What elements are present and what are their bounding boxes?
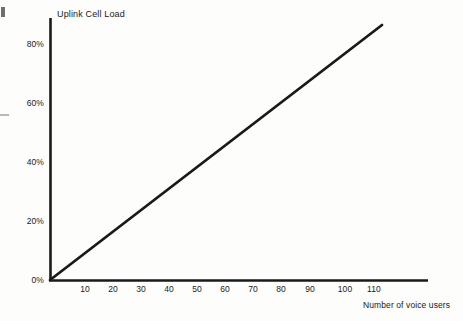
x-tick-label-90: 90 bbox=[305, 284, 315, 294]
x-tick-label-50: 50 bbox=[192, 284, 202, 294]
plot-area bbox=[0, 0, 463, 321]
y-tick-label-60: 60% bbox=[22, 98, 44, 108]
y-tick-label-20: 20% bbox=[22, 216, 44, 226]
y-tick-label-0: 0% bbox=[22, 275, 44, 285]
x-tick-label-10: 10 bbox=[80, 284, 90, 294]
x-tick-label-80: 80 bbox=[276, 284, 286, 294]
x-tick-label-70: 70 bbox=[248, 284, 258, 294]
x-tick-label-110: 110 bbox=[367, 284, 381, 294]
chart-title: Uplink Cell Load bbox=[57, 9, 125, 19]
x-axis-title: Number of voice users bbox=[363, 300, 450, 310]
x-tick-label-100: 100 bbox=[338, 284, 352, 294]
y-tick-label-40: 40% bbox=[22, 157, 44, 167]
series-line-uplink-cell-load bbox=[50, 25, 382, 280]
x-tick-label-20: 20 bbox=[108, 284, 118, 294]
y-tick-label-80: 80% bbox=[22, 39, 44, 49]
chart-figure: Uplink Cell Load 80% 60% 40% 20% 0% 10 2… bbox=[0, 0, 463, 321]
x-tick-label-30: 30 bbox=[136, 284, 146, 294]
x-tick-label-60: 60 bbox=[220, 284, 230, 294]
x-tick-label-40: 40 bbox=[164, 284, 174, 294]
